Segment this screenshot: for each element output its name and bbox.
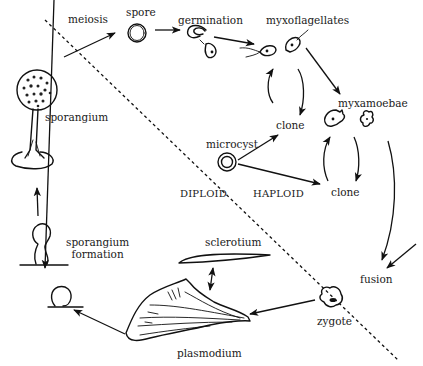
sclerotium-drawing (179, 254, 270, 263)
label-zygote: zygote (317, 315, 352, 327)
germination-drawing (188, 26, 216, 58)
arrow-myxoflagellates-to-myxamoebae (306, 48, 340, 94)
myxamoebae-drawing (325, 110, 374, 126)
label-meiosis: meiosis (68, 13, 108, 25)
zygote-drawing (320, 287, 342, 307)
label-fusion: fusion (360, 273, 392, 285)
label-sporangium-formation: sporangium formation (66, 236, 129, 260)
arrow-myxoflagellates-to-clone (298, 69, 304, 115)
arrow-myxamoebae-to-clone (354, 137, 359, 181)
label-plasmodium: plasmodium (177, 347, 242, 359)
label-diploid: DIPLOID (180, 188, 227, 200)
label-haploid: HAPLOID (253, 188, 304, 200)
arrow-incoming-fusion (387, 244, 416, 268)
arrow-zygote-to-plasmodium (250, 300, 315, 314)
label-sporangium: sporangium (45, 111, 108, 123)
label-spore: spore (126, 6, 156, 18)
life-cycle-diagram: meiosis spore germination myxoflagellate… (0, 0, 423, 366)
label-germination: germination (178, 14, 243, 26)
label-myxamoebae: myxamoebae (338, 97, 408, 109)
diagram-canvas (0, 0, 423, 366)
label-myxoflagellates: myxoflagellates (266, 14, 349, 26)
arrow-clone-to-myxoflagellates (268, 69, 273, 103)
forming-sporangium-drawing (20, 224, 68, 265)
young-sporangium-drawing (48, 287, 83, 307)
label-sporangium-formation-line2: formation (66, 248, 129, 260)
label-sporangium-formation-line1: sporangium (66, 236, 129, 248)
spore-drawing (128, 24, 146, 42)
microcyst-drawing (218, 153, 236, 171)
arrow-myxamoebae-to-fusion (382, 141, 395, 260)
label-clone-flagellate: clone (276, 119, 305, 131)
label-microcyst: microcyst (206, 138, 258, 150)
arrow-germination-to-myxoflagellates (214, 37, 254, 44)
arrow-sclerotium-plasmodium (210, 268, 213, 290)
plasmodium-drawing (126, 279, 250, 340)
arrow-forming-to-mature-sporangium (37, 188, 38, 216)
arrow-plasmodium-to-young-sporangium (74, 310, 125, 334)
arrow-microcyst-to-clone-amoebae (238, 164, 320, 184)
label-sclerotium: sclerotium (205, 236, 261, 248)
arrow-clone-to-myxamoebae (324, 137, 330, 181)
label-clone-amoebae: clone (331, 186, 360, 198)
